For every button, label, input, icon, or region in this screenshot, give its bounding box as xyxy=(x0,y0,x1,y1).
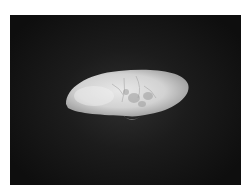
shell-photo: Pale elongated bivalve shell photographe… xyxy=(10,15,241,185)
shell-shape xyxy=(64,68,190,124)
